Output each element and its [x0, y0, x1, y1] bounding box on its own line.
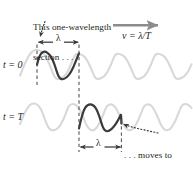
wave-propagation-figure: This one-wavelength section . . . . . . … [0, 0, 193, 172]
bottom-annotation-text: . . . moves to here in one period T. [124, 129, 172, 172]
wavelength-label-bottom: λ [96, 138, 101, 149]
wavelength-label-top: λ [56, 33, 61, 44]
wave-speed-equation-label: v = λ/T [122, 30, 151, 41]
time-label-t-zero: t = 0 [3, 59, 23, 70]
top-annotation-text: This one-wavelength section . . . [33, 1, 111, 83]
time-label-t-period: t = T [3, 111, 23, 122]
bottom-annotation-line-1: . . . moves to [124, 150, 172, 160]
top-annotation-line-2: section . . . [33, 52, 111, 62]
top-annotation-line-1: This one-wavelength [33, 22, 111, 32]
wave-trace-tT-faded [20, 104, 192, 131]
